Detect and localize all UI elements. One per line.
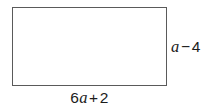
height-constant: 4 bbox=[192, 38, 201, 55]
width-coefficient: 6 bbox=[70, 89, 79, 106]
height-dimension-label: a−4 bbox=[171, 39, 201, 56]
rectangle-shape bbox=[12, 7, 167, 86]
width-constant: 2 bbox=[100, 89, 109, 106]
figure-canvas: 6a+2 a−4 bbox=[0, 0, 217, 112]
width-dimension-label: 6a+2 bbox=[12, 90, 167, 107]
width-operator: + bbox=[88, 89, 100, 106]
width-variable: a bbox=[79, 88, 87, 107]
height-operator: − bbox=[179, 38, 191, 55]
